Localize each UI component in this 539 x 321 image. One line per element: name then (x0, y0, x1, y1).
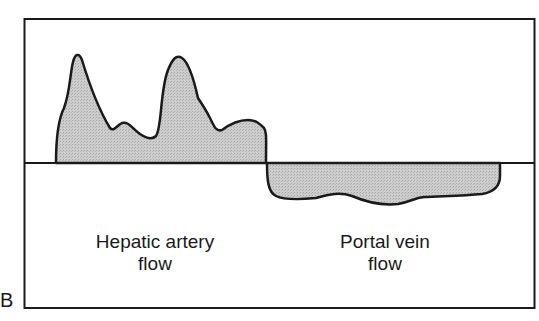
portal-vein-label: Portal vein flow (310, 231, 460, 275)
hepatic-artery-label: Hepatic artery flow (80, 231, 230, 275)
hepatic-artery-label-line1: Hepatic artery (80, 231, 230, 253)
hepatic-artery-label-line2: flow (80, 253, 230, 275)
portal-vein-label-line2: flow (310, 253, 460, 275)
portal-vein-label-line1: Portal vein (310, 231, 460, 253)
hepatic-artery-waveform (56, 55, 266, 163)
portal-vein-waveform (267, 163, 500, 205)
